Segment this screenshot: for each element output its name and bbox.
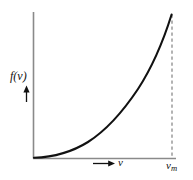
y-axis-arrow-icon [23,86,29,103]
x-axis-label: v [118,157,123,168]
figure-container: f(v) v vm [0,0,193,180]
vm-label: vm [166,160,177,173]
fv-curve [34,15,172,158]
plot-canvas [0,0,193,180]
vm-label-subscript: m [171,163,177,173]
x-axis-arrow-icon [93,160,115,166]
y-axis-label-paren: ) [23,69,27,83]
y-axis-label: f(v) [10,70,27,82]
